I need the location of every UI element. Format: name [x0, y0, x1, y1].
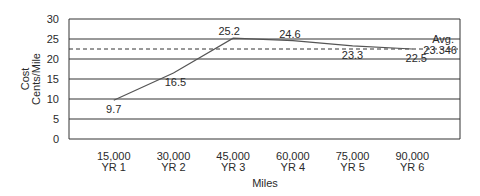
- x-axis-label: Miles: [252, 177, 278, 189]
- y-axis-ticks: 051015202530: [47, 13, 59, 145]
- y-axis-label-units: Cents/Mile: [30, 53, 42, 105]
- x-axis-ticks: 15,000YR 130,000YR 245,000YR 360,000YR 4…: [97, 150, 429, 173]
- data-label: 22.5: [406, 52, 427, 64]
- y-tick-label: 5: [53, 113, 59, 125]
- line-chart: 051015202530 15,000YR 130,000YR 245,000Y…: [0, 0, 480, 196]
- y-tick-label: 30: [47, 13, 59, 25]
- y-tick-label: 25: [47, 33, 59, 45]
- y-tick-label: 0: [53, 133, 59, 145]
- data-label: 25.2: [218, 25, 239, 37]
- data-label: 24.6: [279, 28, 300, 40]
- series-line: [114, 38, 412, 100]
- x-tick-year: YR 3: [221, 161, 245, 173]
- average-value: 23.346: [423, 44, 457, 56]
- data-label: 9.7: [106, 103, 121, 115]
- x-tick-year: YR 6: [400, 161, 424, 173]
- y-tick-label: 15: [47, 73, 59, 85]
- data-label: 23.3: [342, 49, 363, 61]
- gridlines: [69, 19, 460, 139]
- y-tick-label: 20: [47, 53, 59, 65]
- x-tick-year: YR 1: [102, 161, 126, 173]
- average-line: Avg.23.346: [69, 33, 458, 56]
- x-tick-year: YR 2: [161, 161, 185, 173]
- x-tick-year: YR 5: [340, 161, 364, 173]
- data-label: 16.5: [165, 76, 186, 88]
- y-tick-label: 10: [47, 93, 59, 105]
- x-tick-year: YR 4: [281, 161, 305, 173]
- cost-line: [114, 38, 412, 100]
